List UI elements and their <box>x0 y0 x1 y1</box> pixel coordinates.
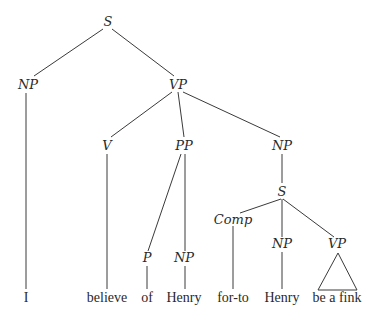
edge-vp_main-to-pp <box>178 92 184 137</box>
leaf-word-w_beafink: be a fink <box>313 290 362 305</box>
leaf-word-w_henry2: Henry <box>265 290 300 305</box>
tree-nodes: SNPVPVPPNPSCompPNPNPVPIbelieveofHenryfor… <box>17 14 362 305</box>
edge-vp_main-to-v <box>111 92 172 137</box>
node-label-pp: PP <box>174 138 193 153</box>
node-label-np_subj: NP <box>17 77 38 92</box>
node-label-np_pp: NP <box>173 250 194 265</box>
edge-s_root-to-np_subj <box>34 29 103 76</box>
node-label-s_root: S <box>104 14 113 29</box>
vp-triangle-abbreviation <box>318 253 357 290</box>
node-label-p: P <box>142 250 152 265</box>
leaf-word-w_of: of <box>141 290 153 305</box>
leaf-word-w_forto: for-to <box>217 290 249 305</box>
leaf-word-w_believe: believe <box>87 290 127 305</box>
edge-s_emb-to-comp <box>240 199 281 213</box>
leaf-word-w_i: I <box>24 290 29 305</box>
node-label-vp_main: VP <box>169 77 187 92</box>
node-label-s_emb: S <box>278 184 287 199</box>
node-label-v: V <box>102 138 113 153</box>
edge-s_root-to-vp_main <box>112 29 174 76</box>
edge-vp_main-to-np_obj <box>183 92 280 137</box>
node-label-comp: Comp <box>214 212 253 227</box>
node-label-np_emb: NP <box>271 236 292 251</box>
node-label-vp_emb: VP <box>328 236 346 251</box>
edge-pp-to-p <box>148 154 181 251</box>
node-label-np_obj: NP <box>271 138 292 153</box>
edge-s_emb-to-vp_emb <box>283 199 334 237</box>
leaf-word-w_henry1: Henry <box>167 290 202 305</box>
syntax-tree-diagram: SNPVPVPPNPSCompPNPNPVPIbelieveofHenryfor… <box>0 0 380 317</box>
